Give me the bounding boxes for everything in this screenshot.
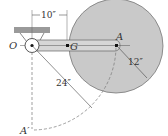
support-strut-left <box>20 33 27 42</box>
label-dim-12: 12″ <box>128 57 143 67</box>
g-point <box>66 44 69 47</box>
label-a: A <box>115 31 123 42</box>
label-dim-24: 24″ <box>56 78 71 88</box>
label-a-prime: A′ <box>19 125 30 136</box>
pendulum-diagram: O G A A′ 10″ 12″ 24″ <box>0 0 168 136</box>
label-g: G <box>70 41 78 52</box>
label-o: O <box>9 40 17 51</box>
label-dim-10: 10″ <box>41 10 56 20</box>
